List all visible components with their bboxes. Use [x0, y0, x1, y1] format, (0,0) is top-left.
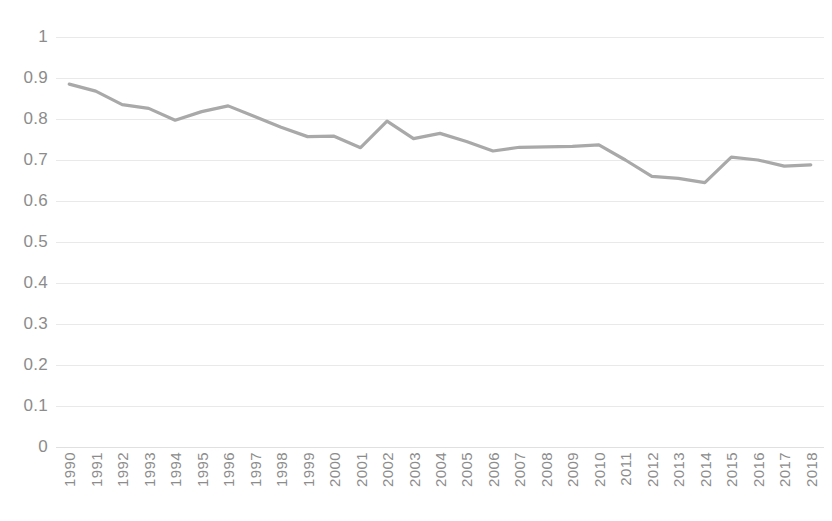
chart-title-clipped	[0, 0, 832, 3]
x-tick-label-text: 2013	[670, 452, 687, 487]
x-tick-label-text: 1994	[167, 452, 184, 487]
x-tick-label-text: 2003	[405, 452, 422, 487]
y-axis: 10.90.80.70.60.50.40.30.20.10	[0, 37, 48, 447]
y-tick-label: 0.3	[23, 314, 48, 334]
x-tick-label-text: 2017	[776, 452, 793, 487]
x-tick-label-text: 1996	[220, 452, 237, 487]
y-tick-label: 0.6	[23, 191, 48, 211]
plot-area	[56, 37, 824, 447]
line-chart: 10.90.80.70.60.50.40.30.20.10 1990199119…	[0, 0, 832, 521]
x-tick-label-text: 1995	[193, 452, 210, 487]
y-tick-label: 0.4	[23, 273, 48, 293]
y-tick-label: 0.5	[23, 232, 48, 252]
x-tick-label-text: 2002	[379, 452, 396, 487]
x-tick-label-text: 2006	[484, 452, 501, 487]
y-tick-label: 0	[38, 437, 48, 457]
x-tick-label-text: 2012	[643, 452, 660, 487]
x-tick-label-text: 2010	[590, 452, 607, 487]
x-tick-label-text: 2009	[564, 452, 581, 487]
x-tick-label-text: 2004	[432, 452, 449, 487]
x-tick-label-text: 2016	[749, 452, 766, 487]
x-tick-label-text: 2000	[326, 452, 343, 487]
x-tick-label-text: 2018	[802, 452, 819, 487]
x-tick-label-text: 2008	[537, 452, 554, 487]
x-tick-label-text: 1993	[140, 452, 157, 487]
x-tick-label-text: 1990	[61, 452, 78, 487]
y-tick-label: 0.1	[23, 396, 48, 416]
series-line-series-1	[69, 84, 811, 182]
x-tick-label-text: 1992	[114, 452, 131, 487]
x-axis: 1990199119921993199419951996199719981999…	[56, 452, 824, 518]
x-tick-label-text: 1991	[87, 452, 104, 487]
y-tick-label: 0.9	[23, 68, 48, 88]
x-tick-label-text: 1999	[299, 452, 316, 487]
y-tick-label: 1	[38, 27, 48, 47]
x-tick-label-text: 2001	[352, 452, 369, 487]
x-tick-label-text: 2015	[723, 452, 740, 487]
gridline-0	[56, 447, 824, 448]
y-tick-label: 0.2	[23, 355, 48, 375]
x-tick-label-text: 1998	[273, 452, 290, 487]
x-tick-label-text: 2011	[617, 452, 634, 486]
y-tick-label: 0.8	[23, 109, 48, 129]
x-tick-label-text: 2014	[696, 452, 713, 487]
x-tick-label-text: 2007	[511, 452, 528, 487]
y-tick-label: 0.7	[23, 150, 48, 170]
series-layer	[56, 37, 824, 447]
x-tick-label-text: 1997	[246, 452, 263, 487]
x-tick-label-text: 2005	[458, 452, 475, 487]
